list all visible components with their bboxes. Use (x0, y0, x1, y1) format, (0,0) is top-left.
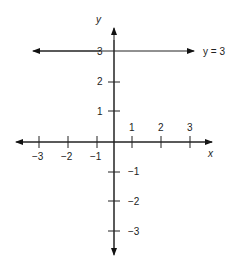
y-tick-label-3: 3 (97, 46, 103, 57)
x-axis-label: x (207, 148, 214, 159)
x-tick-label-1: 1 (129, 122, 135, 133)
line-label: y = 3 (203, 46, 225, 57)
y-tick-label-neg2: −2 (128, 196, 140, 207)
y-tick-label-neg3: −3 (128, 226, 140, 237)
x-tick-label-neg3: −3 (32, 151, 44, 162)
y-axis-label: y (95, 14, 102, 25)
y-tick-label-neg1: −1 (128, 166, 140, 177)
coordinate-plane: y x y = 3 3 2 1 −1 −2 −3 −3 −2 −1 1 2 3 (0, 0, 236, 277)
x-tick-label-neg2: −2 (61, 151, 73, 162)
x-tick-label-neg1: −1 (90, 151, 102, 162)
x-tick-label-2: 2 (158, 122, 164, 133)
x-tick-label-3: 3 (187, 122, 193, 133)
graph-svg: y x y = 3 3 2 1 −1 −2 −3 −3 −2 −1 1 2 3 (0, 0, 236, 277)
y-tick-label-2: 2 (97, 76, 103, 87)
y-tick-label-1: 1 (97, 106, 103, 117)
